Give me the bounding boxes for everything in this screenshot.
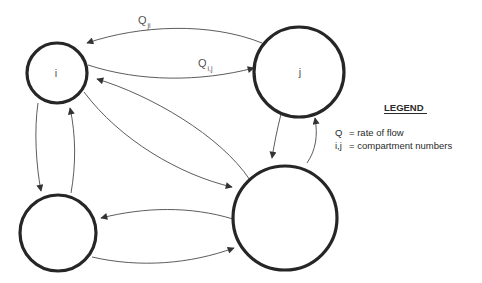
edge-j-to-bottomright xyxy=(272,114,281,158)
node-j: j xyxy=(254,27,344,117)
flow-label-qij-main: Q xyxy=(198,57,207,69)
node-i-label: i xyxy=(55,67,57,79)
node-bottom-right xyxy=(233,166,337,270)
node-i: i xyxy=(27,43,87,103)
edge-i-to-j xyxy=(88,65,254,78)
edge-i-to-bottomleft xyxy=(36,103,41,191)
compartment-diagram: i j Qji Qi,j LEGEND Q = rate of flow i,j… xyxy=(0,0,482,283)
node-j-label: j xyxy=(298,66,301,78)
legend-symbol-q: Q xyxy=(335,127,342,138)
edge-bottomright-to-bottomleft xyxy=(101,210,233,220)
flow-label-qij-sub: i,j xyxy=(208,65,214,73)
svg-text:Qji: Qji xyxy=(138,14,151,30)
edge-bottomleft-to-i xyxy=(70,108,75,193)
flow-label-qji-main: Q xyxy=(138,14,147,26)
flow-label-qji-sub: ji xyxy=(147,22,152,30)
legend-desc-q: = rate of flow xyxy=(349,127,404,138)
node-bottom-left xyxy=(20,195,96,271)
svg-text:Qi,j: Qi,j xyxy=(198,57,213,73)
edge-j-to-i xyxy=(87,28,262,43)
flow-label-qij: Qi,j xyxy=(198,57,213,73)
legend-title: LEGEND xyxy=(384,102,424,113)
flow-label-qji: Qji xyxy=(138,14,151,30)
edge-bottomleft-to-bottomright xyxy=(92,248,234,263)
legend-symbol-ij: i,j xyxy=(335,140,342,151)
legend-desc-ij: = compartment numbers xyxy=(349,140,452,151)
edge-bottomright-to-j xyxy=(307,118,316,163)
legend: LEGEND Q = rate of flow i,j = compartmen… xyxy=(335,102,452,151)
edge-i-to-bottomright xyxy=(84,92,232,187)
